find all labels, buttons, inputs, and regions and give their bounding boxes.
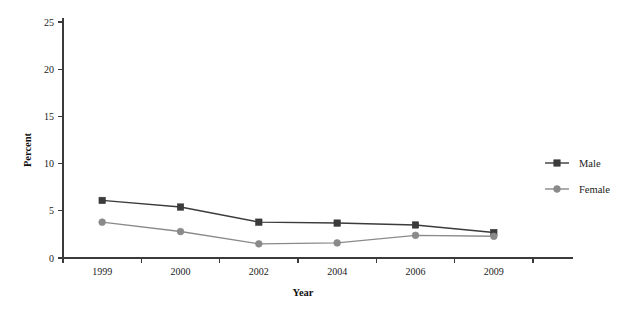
legend-item-male[interactable]: Male xyxy=(545,158,601,169)
x-tick-label: 2004 xyxy=(327,266,347,277)
y-tick-label: 0 xyxy=(49,253,54,264)
y-tick-label: 20 xyxy=(44,64,54,75)
y-axis-title: Percent xyxy=(22,132,33,167)
series-male xyxy=(99,197,497,235)
x-tick-label: 2000 xyxy=(171,266,191,277)
chart-canvas: 0510152025 199920002002200420062009 Perc… xyxy=(0,0,635,318)
legend-item-female[interactable]: Female xyxy=(545,184,610,195)
x-axis: 199920002002200420062009 xyxy=(63,258,573,277)
data-point-marker xyxy=(99,219,106,226)
line-chart: 0510152025 199920002002200420062009 Perc… xyxy=(0,0,635,318)
data-point-marker xyxy=(99,197,105,203)
legend-marker xyxy=(554,186,561,193)
x-tick-label: 2002 xyxy=(249,266,269,277)
y-tick-label: 10 xyxy=(44,158,54,169)
legend-marker xyxy=(554,160,560,166)
data-point-marker xyxy=(412,222,418,228)
data-point-marker xyxy=(256,219,262,225)
data-point-marker xyxy=(177,228,184,235)
chart-legend: MaleFemale xyxy=(545,158,610,195)
y-tick-label: 5 xyxy=(49,205,54,216)
x-tick-label: 1999 xyxy=(92,266,112,277)
y-tick-label: 15 xyxy=(44,111,54,122)
data-point-marker xyxy=(255,240,262,247)
x-tick-label: 2006 xyxy=(406,266,426,277)
series-line xyxy=(102,222,494,244)
data-point-marker xyxy=(177,204,183,210)
data-point-marker xyxy=(334,220,340,226)
series-line xyxy=(102,200,494,232)
x-axis-title: Year xyxy=(293,287,314,298)
legend-label: Female xyxy=(579,184,610,195)
legend-label: Male xyxy=(579,158,601,169)
data-point-marker xyxy=(412,232,419,239)
y-axis: 0510152025 xyxy=(44,17,63,264)
x-tick-label: 2009 xyxy=(484,266,504,277)
data-series-group xyxy=(99,197,497,247)
data-point-marker xyxy=(490,233,497,240)
data-point-marker xyxy=(334,239,341,246)
y-tick-label: 25 xyxy=(44,17,54,28)
